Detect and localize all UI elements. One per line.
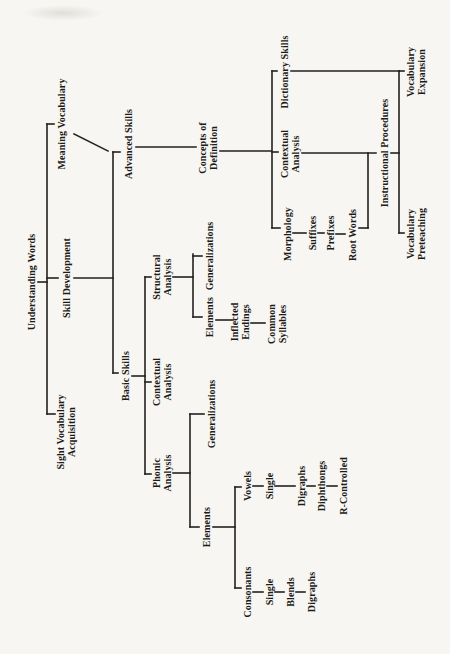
node-generalizations-phonic: Generalizations <box>206 380 217 449</box>
node-generalizations-structural: Generalizations <box>204 222 215 291</box>
node-sight-vocabulary-acquisition: Sight Vocabulary Acquisition <box>55 394 77 469</box>
scanned-book-page: Understanding WordsSight Vocabulary Acqu… <box>0 0 450 654</box>
node-inflected-endings: Inflected Endings <box>229 303 251 342</box>
node-structural-analysis: Structural Analysis <box>151 254 173 299</box>
node-vowels: Vowels <box>242 471 253 501</box>
node-elements-phonic: Elements <box>201 507 212 547</box>
node-consonants: Consonants <box>242 566 253 617</box>
node-phonic-analysis: Phonic Analysis <box>151 455 173 492</box>
node-meaning-vocabulary: Meaning Vocabulary <box>56 79 67 170</box>
node-vocabulary-expansion: Vocabulary Expansion <box>405 47 427 97</box>
node-consonants-blends: Blends <box>285 577 296 607</box>
node-common-syllables: Common Syllables <box>266 304 288 344</box>
node-contextual-analysis-advanced: Contextual Analysis <box>279 130 301 178</box>
node-instructional-procedures: Instructional Procedures <box>379 99 390 207</box>
node-basic-skills: Basic Skills <box>120 351 131 401</box>
node-prefixes: Prefixes <box>325 215 336 250</box>
rotated-diagram-canvas: Understanding WordsSight Vocabulary Acqu… <box>0 0 450 654</box>
node-root-words: Root Words <box>347 209 358 261</box>
node-consonants-single: Single <box>264 579 275 606</box>
node-elements-structural: Elements <box>204 297 215 337</box>
node-understanding-words: Understanding Words <box>26 234 37 330</box>
tree-nodes-layer: Understanding WordsSight Vocabulary Acqu… <box>0 0 450 654</box>
node-vocabulary-preteaching: Vocabulary Preteaching <box>405 208 427 260</box>
node-concepts-of-definition: Concepts of Definition <box>197 122 219 173</box>
node-vowels-diphthongs: Diphthongs <box>316 461 327 511</box>
node-suffixes: Suffixes <box>307 216 318 251</box>
node-skill-development: Skill Development <box>61 238 72 318</box>
node-vowels-digraphs: Digraphs <box>296 466 307 506</box>
node-vowels-r-controlled: R-Controlled <box>338 457 349 515</box>
node-advanced-skills: Advanced Skills <box>123 109 134 179</box>
node-vowels-single: Single <box>264 473 275 500</box>
node-contextual-analysis-basic: Contextual Analysis <box>151 358 173 406</box>
node-morphology: Morphology <box>282 207 293 261</box>
node-consonants-digraphs: Digraphs <box>306 572 317 612</box>
node-dictionary-skills: Dictionary Skills <box>279 35 290 108</box>
